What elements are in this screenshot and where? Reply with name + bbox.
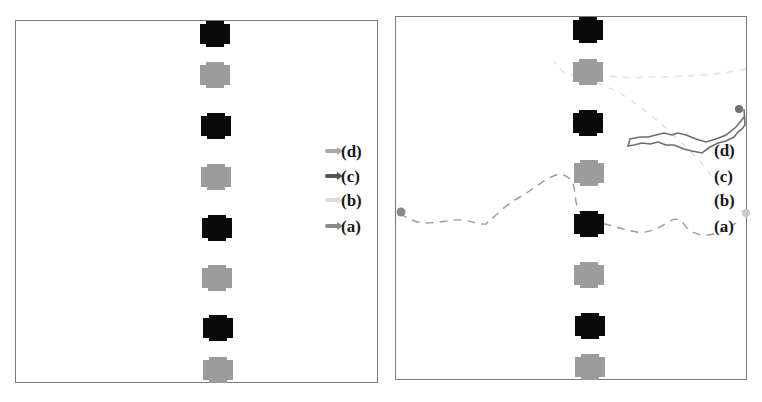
trajectory-label-d: (d)	[714, 142, 735, 159]
obstacle-grey	[202, 265, 232, 291]
obstacle-grey	[574, 262, 604, 288]
trajectory-layer	[396, 17, 748, 381]
marker-label-a: (a)	[341, 218, 361, 235]
marker-label-c: (c)	[341, 168, 360, 185]
obstacle-grey	[575, 354, 605, 380]
marker-label-d: (d)	[341, 143, 362, 160]
obstacle-grey	[200, 62, 230, 88]
obstacle-black	[573, 110, 603, 136]
left-panel: (d) (c) (b) (a)	[15, 20, 378, 383]
obstacle-black	[202, 215, 232, 241]
obstacle-grey	[201, 164, 231, 190]
trajectory-label-a: (a)	[714, 218, 734, 235]
obstacle-black	[201, 113, 231, 139]
obstacle-black	[574, 211, 604, 237]
obstacle-grey	[574, 160, 604, 186]
start-arrow-c-icon	[325, 174, 339, 178]
marker-label-b: (b)	[341, 192, 362, 209]
obstacle-grey	[573, 59, 603, 85]
trajectory-label-c: (c)	[714, 168, 733, 185]
start-arrow-d-icon	[325, 149, 339, 153]
obstacle-black	[200, 21, 230, 47]
trajectory-a	[400, 174, 736, 235]
start-arrow-b-icon	[325, 198, 339, 202]
right-panel: (d) (c) (b) (a)	[395, 16, 747, 380]
obstacle-grey	[203, 357, 233, 383]
obstacle-black	[203, 315, 233, 341]
obstacle-black	[575, 313, 605, 339]
start-arrow-a-icon	[325, 224, 339, 228]
obstacle-black	[573, 17, 603, 43]
trajectory-c-start-dot	[735, 105, 743, 113]
trajectory-a-start-dot	[397, 208, 406, 217]
trajectory-label-b: (b)	[714, 192, 735, 209]
trajectory-b-start-dot	[742, 209, 750, 217]
